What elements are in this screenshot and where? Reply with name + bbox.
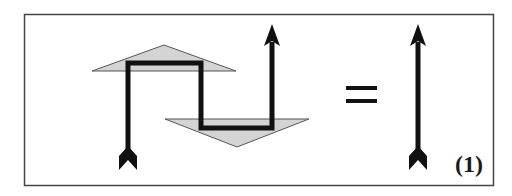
diagram-figure: = (1) xyxy=(0,0,512,196)
equation-label: (1) xyxy=(455,152,483,176)
straight-arrow-tail-icon xyxy=(409,146,427,170)
lower-triangle-plate xyxy=(165,119,309,147)
upper-triangle-plate xyxy=(92,45,236,71)
diagram-svg xyxy=(0,0,512,196)
left-arrow-tail-icon xyxy=(119,146,137,170)
equals-sign-top-bar xyxy=(346,86,377,90)
equals-sign-bottom-bar xyxy=(346,99,377,103)
